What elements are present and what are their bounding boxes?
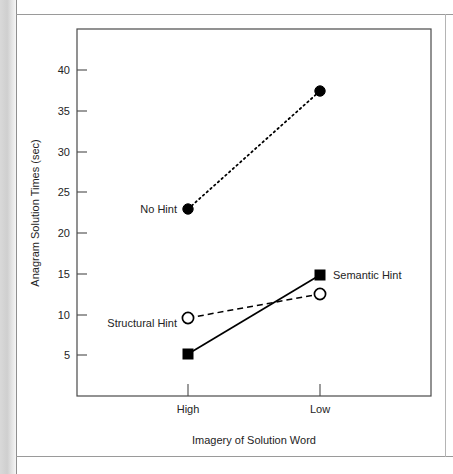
y-tick-label-35: 35 bbox=[58, 105, 70, 117]
datapoint-semantic-hint-low bbox=[315, 270, 325, 280]
y-axis-tick-labels: 40 35 30 25 20 15 10 5 bbox=[58, 64, 70, 361]
y-tick-label-10: 10 bbox=[58, 309, 70, 321]
scan-edge-shadow bbox=[0, 0, 16, 474]
y-tick-label-40: 40 bbox=[58, 64, 70, 76]
figure-area: 40 35 30 25 20 15 10 5 Anagram Solution … bbox=[17, 15, 445, 456]
series-label-no-hint: No Hint bbox=[140, 203, 177, 215]
datapoint-structural-hint-low bbox=[314, 288, 325, 299]
series-label-structural-hint: Structural Hint bbox=[107, 317, 177, 329]
x-tick-label-high: High bbox=[177, 403, 200, 415]
datapoint-structural-hint-high bbox=[182, 312, 193, 323]
y-tick-label-20: 20 bbox=[58, 227, 70, 239]
datapoint-no-hint-low bbox=[315, 86, 325, 96]
datapoint-no-hint-high bbox=[183, 204, 193, 214]
page-border-right bbox=[445, 14, 446, 457]
y-tick-label-30: 30 bbox=[58, 146, 70, 158]
x-tick-label-low: Low bbox=[310, 403, 330, 415]
series-label-semantic-hint: Semantic Hint bbox=[333, 269, 401, 281]
scanned-page: 40 35 30 25 20 15 10 5 Anagram Solution … bbox=[0, 0, 453, 474]
plot-frame bbox=[77, 29, 431, 396]
datapoint-semantic-hint-high bbox=[183, 349, 193, 359]
y-tick-label-25: 25 bbox=[58, 186, 70, 198]
y-tick-label-15: 15 bbox=[58, 268, 70, 280]
line-chart: 40 35 30 25 20 15 10 5 Anagram Solution … bbox=[17, 15, 445, 456]
x-axis-tick-labels: High Low bbox=[177, 403, 330, 415]
plot-border bbox=[77, 29, 431, 396]
page-border-bottom bbox=[16, 456, 453, 457]
y-axis-title: Anagram Solution Times (sec) bbox=[29, 139, 41, 286]
y-tick-label-5: 5 bbox=[64, 349, 70, 361]
x-axis-title: Imagery of Solution Word bbox=[192, 434, 316, 446]
